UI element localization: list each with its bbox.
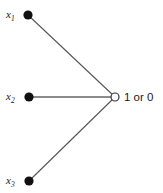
input-label-x1-subscript: 1 xyxy=(11,14,15,23)
input-label-group: x1 x2 x3 xyxy=(5,8,15,189)
input-node-x1[interactable] xyxy=(23,10,32,19)
input-label-x1: x1 xyxy=(5,8,15,23)
input-label-x3: x3 xyxy=(5,174,15,189)
input-label-x2: x2 xyxy=(5,90,15,105)
input-node-x3[interactable] xyxy=(24,176,33,185)
input-label-x3-subscript: 3 xyxy=(10,180,15,189)
input-node-group xyxy=(23,10,33,185)
edge-x1-output xyxy=(28,15,115,97)
output-label: 1 or 0 xyxy=(124,91,153,103)
input-node-x2[interactable] xyxy=(24,92,33,101)
edge-group xyxy=(28,15,115,181)
input-label-x2-subscript: 2 xyxy=(11,96,15,105)
perceptron-diagram: x1 x2 x3 1 or 0 xyxy=(0,0,163,193)
diagram-canvas: x1 x2 x3 1 or 0 xyxy=(0,0,163,193)
output-node[interactable] xyxy=(111,93,119,101)
edge-x3-output xyxy=(29,97,115,181)
